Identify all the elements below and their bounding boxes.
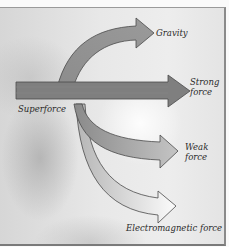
diagram-frame: Superforce Gravity Strong force Weak for… bbox=[0, 0, 229, 247]
weak-force-label-line2: force bbox=[185, 152, 219, 162]
superforce-label: Superforce bbox=[18, 104, 66, 114]
gravity-arrow bbox=[57, 18, 154, 88]
strong-force-label-line1: Strong bbox=[190, 77, 224, 87]
superforce-strong-arrow bbox=[16, 75, 190, 107]
weak-force-label: Weak force bbox=[185, 142, 219, 162]
strong-force-label-line2: force bbox=[190, 87, 224, 97]
electromagnetic-force-label: Electromagnetic force bbox=[126, 223, 222, 233]
weak-force-label-line1: Weak bbox=[185, 142, 219, 152]
gravity-label: Gravity bbox=[156, 28, 188, 38]
force-arrows bbox=[0, 0, 229, 247]
strong-force-label: Strong force bbox=[190, 77, 224, 97]
